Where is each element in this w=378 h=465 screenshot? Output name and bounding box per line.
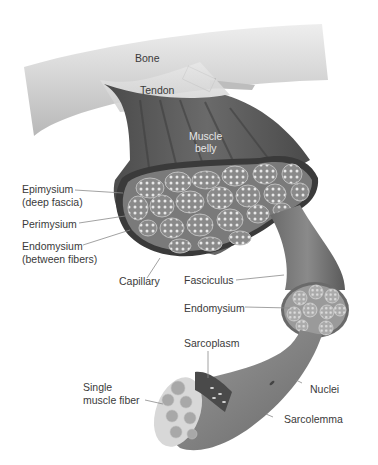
label-single-fiber-line2: muscle fiber [83, 394, 140, 406]
label-endomysium-fascicle: Endomysium [184, 302, 245, 314]
muscle-anatomy-illustration [0, 0, 378, 465]
label-bone: Bone [135, 52, 160, 64]
label-epimysium-line2: (deep fascia) [22, 196, 83, 208]
label-muscle-belly-line1: Muscle [189, 130, 222, 142]
label-tendon: Tendon [140, 84, 174, 96]
label-muscle-belly-line2: belly [195, 142, 217, 154]
label-epimysium-line1: Epimysium [22, 183, 73, 195]
label-endomysium-line1: Endomysium [22, 240, 83, 252]
fasciculus [270, 205, 349, 338]
label-fasciculus: Fasciculus [184, 274, 234, 286]
label-capillary: Capillary [119, 275, 160, 287]
label-endomysium-line2: (between fibers) [22, 253, 97, 265]
label-sarcolemma: Sarcolemma [284, 413, 343, 425]
label-perimysium: Perimysium [22, 218, 77, 230]
label-single-fiber-line1: Single [83, 381, 112, 393]
label-sarcoplasm: Sarcoplasm [184, 337, 239, 349]
label-nuclei: Nuclei [310, 383, 339, 395]
